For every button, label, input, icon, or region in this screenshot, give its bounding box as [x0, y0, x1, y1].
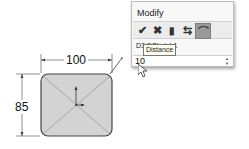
mouse-cursor-icon: [138, 64, 148, 78]
horizontal-dimension-label[interactable]: 100: [64, 54, 88, 66]
dialog-title: Modify: [137, 8, 164, 18]
reverse-arrows-icon[interactable]: ⇆: [180, 23, 194, 37]
vertical-dimension-label[interactable]: 85: [15, 100, 28, 114]
tooltip: Distance: [143, 44, 176, 56]
close-icon[interactable]: ✖: [150, 23, 164, 37]
dialog-toolbar: ✔ ✖ ▮ ⇆ ⌒: [133, 21, 232, 39]
checkmark-icon[interactable]: ✔: [135, 23, 149, 37]
spin-control[interactable]: ▲ ▼: [223, 56, 231, 66]
mark-icon[interactable]: ⌒: [195, 23, 211, 39]
traffic-light-icon[interactable]: ▮: [165, 23, 179, 37]
spin-down-icon[interactable]: ▼: [223, 61, 231, 66]
modify-dialog: Modify ✔ ✖ ▮ ⇆ ⌒ D3@Sketch1 10 ▲ ▼: [131, 1, 234, 67]
